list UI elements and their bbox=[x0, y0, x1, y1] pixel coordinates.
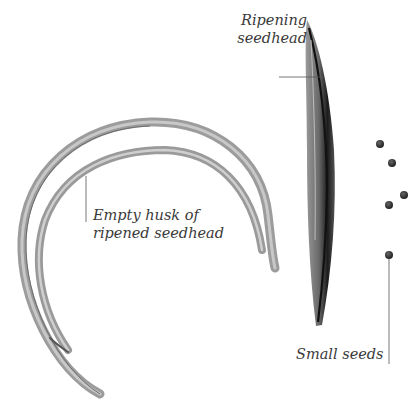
label-small-seeds: Small seeds bbox=[296, 345, 384, 363]
seed bbox=[385, 251, 393, 259]
ripening-seedhead bbox=[306, 20, 335, 326]
label-empty-husk: Empty husk of ripened seedhead bbox=[93, 206, 224, 242]
small-seeds bbox=[376, 140, 408, 259]
label-line: ripened seedhead bbox=[93, 224, 224, 242]
empty-husk bbox=[22, 122, 275, 394]
seed bbox=[400, 191, 408, 199]
seed bbox=[388, 159, 396, 167]
label-line: seedhead bbox=[237, 29, 307, 47]
label-line: Ripening bbox=[237, 11, 307, 29]
label-line: Empty husk of bbox=[93, 206, 224, 224]
label-ripening-seedhead: Ripening seedhead bbox=[237, 11, 307, 47]
seed bbox=[376, 140, 384, 148]
seed bbox=[385, 201, 393, 209]
